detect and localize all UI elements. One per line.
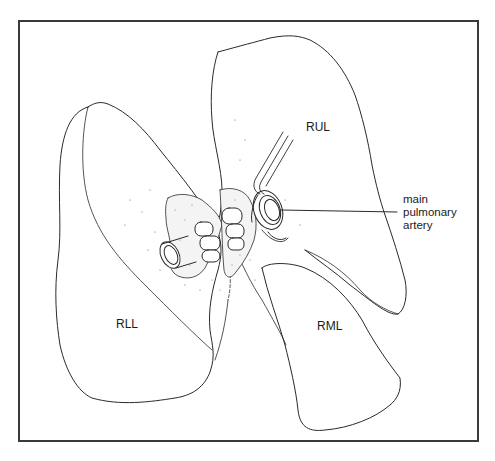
label-right-middle-lobe: RML bbox=[317, 320, 342, 332]
retractor-hook bbox=[262, 230, 288, 242]
lung-anatomy-figure: RUL RLL RML main pulmonary artery bbox=[0, 0, 495, 461]
medial-border-line bbox=[215, 300, 228, 360]
hilar-vessel-6 bbox=[228, 238, 244, 250]
callout-main-pulmonary-artery: main pulmonary artery bbox=[403, 193, 457, 232]
rml-lobe-outline bbox=[262, 264, 400, 431]
callout-line-1: main bbox=[403, 193, 457, 206]
hilar-vessel-3 bbox=[202, 250, 220, 262]
hilar-vessel-4 bbox=[222, 208, 242, 224]
hilar-vessel-2 bbox=[200, 236, 220, 250]
rul-lobe-outline bbox=[211, 36, 406, 314]
callout-line-3: artery bbox=[403, 219, 457, 232]
label-right-upper-lobe: RUL bbox=[306, 121, 330, 133]
callout-leader-line bbox=[280, 210, 397, 212]
label-right-lower-lobe: RLL bbox=[116, 318, 138, 330]
callout-line-2: pulmonary bbox=[403, 206, 457, 219]
hilar-vessel-5 bbox=[226, 224, 244, 238]
hilar-vessel-1 bbox=[195, 222, 213, 236]
retractor-instrument bbox=[254, 132, 293, 194]
